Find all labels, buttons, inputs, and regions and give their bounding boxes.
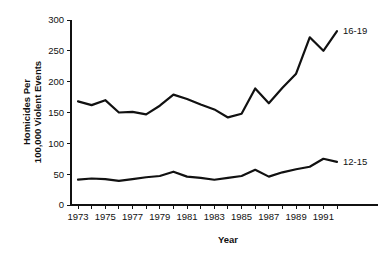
y-axis: 050100150200250300 <box>48 14 71 210</box>
x-tick-label: 1989 <box>286 211 307 222</box>
y-tick-label: 200 <box>48 76 64 87</box>
series-lines <box>78 31 337 181</box>
series-label-12-15: 12-15 <box>343 156 367 167</box>
x-tick-label: 1985 <box>231 211 252 222</box>
chart-container: 050100150200250300 197319751977197919811… <box>0 0 387 253</box>
y-axis-title-line2: 100,000 Violent Events <box>32 61 43 163</box>
x-tick-label: 1977 <box>122 211 143 222</box>
y-tick-label: 50 <box>53 169 64 180</box>
x-axis: 1973197519771979198119831985198719891991 <box>67 205 378 222</box>
x-tick-label: 1975 <box>95 211 116 222</box>
series-labels: 16-1912-15 <box>343 25 367 167</box>
series-label-16-19: 16-19 <box>343 25 367 36</box>
y-tick-label: 150 <box>48 107 64 118</box>
series-line-16-19 <box>78 31 337 117</box>
line-chart: 050100150200250300 197319751977197919811… <box>0 0 387 253</box>
x-tick-label: 1979 <box>149 211 170 222</box>
x-tick-label: 1987 <box>258 211 279 222</box>
x-tick-label: 1991 <box>313 211 334 222</box>
y-tick-label: 300 <box>48 14 64 25</box>
y-tick-label: 250 <box>48 45 64 56</box>
y-axis-title-line1: Homicides Per <box>21 79 32 145</box>
x-axis-title: Year <box>218 234 238 245</box>
y-tick-label: 100 <box>48 138 64 149</box>
x-tick-label: 1973 <box>67 211 88 222</box>
series-line-12-15 <box>78 159 337 181</box>
x-tick-label: 1981 <box>176 211 197 222</box>
y-tick-label: 0 <box>59 199 64 210</box>
x-tick-label: 1983 <box>204 211 225 222</box>
